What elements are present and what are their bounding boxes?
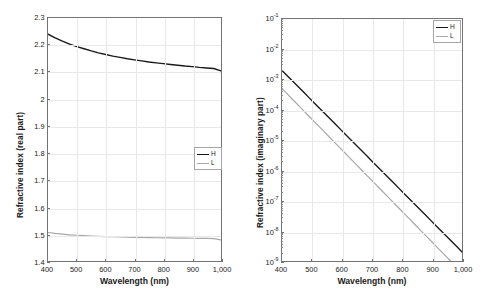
tick-mark-y-minor — [281, 51, 283, 52]
gridline-horizontal — [282, 111, 462, 112]
tick-mark-y-minor — [281, 53, 283, 54]
tick-mark-y-minor — [281, 186, 283, 187]
x-tick-label: 600 — [99, 265, 111, 274]
gridline-horizontal — [282, 50, 462, 51]
gridline-horizontal — [48, 181, 221, 182]
series-line-l — [282, 89, 451, 261]
panel-real-part: Refractive index (real part) H L Wavelen… — [0, 0, 243, 305]
tick-mark-y-minor — [281, 213, 283, 214]
gridline-vertical — [373, 19, 374, 261]
tick-mark-y-minor — [281, 241, 283, 242]
tick-mark-x — [281, 259, 282, 262]
tick-mark-y-minor — [281, 206, 283, 207]
tick-mark-y-minor — [281, 131, 283, 132]
tick-mark-y-minor — [281, 173, 283, 174]
tick-mark-x — [135, 259, 136, 262]
gridline-horizontal — [48, 127, 221, 128]
tick-mark-y-minor — [281, 247, 283, 248]
gridline-horizontal — [282, 80, 462, 81]
x-tick-label: 700 — [128, 265, 140, 274]
gridline-horizontal — [282, 141, 462, 142]
tick-mark-y — [47, 180, 50, 181]
tick-mark-y-minor — [281, 192, 283, 193]
dual-panel-figure: Refractive index (real part) H L Wavelen… — [0, 0, 486, 305]
tick-mark-y-minor — [281, 183, 283, 184]
y-tick-label: 10-8 — [266, 227, 279, 236]
tick-mark-x — [76, 259, 77, 262]
tick-mark-y-minor — [281, 23, 283, 24]
y-tick-label: 1.6 — [34, 203, 44, 212]
tick-mark-y-minor — [281, 27, 283, 28]
x-tick-label: 1,000 — [454, 265, 473, 274]
y-axis-label-left: Refractive index (real part) — [16, 112, 25, 218]
y-tick-label: 2.2 — [34, 40, 44, 49]
gridline-horizontal — [48, 45, 221, 46]
series-line-h — [282, 70, 462, 252]
tick-mark-x — [105, 259, 106, 262]
y-tick-label: 1.7 — [34, 176, 44, 185]
tick-mark-y — [281, 262, 284, 263]
x-axis-label-left: Wavelength (nm) — [47, 276, 222, 286]
y-tick-label: 10-3 — [266, 75, 279, 84]
tick-mark-x — [372, 259, 373, 262]
tick-mark-y-minor — [281, 34, 283, 35]
x-tick-label: 900 — [187, 265, 199, 274]
tick-mark-y-minor — [281, 111, 283, 112]
gridline-vertical — [434, 19, 435, 261]
tick-mark-y-minor — [281, 152, 283, 153]
legend-item-h[interactable]: H — [436, 23, 458, 31]
y-tick-label: 1.9 — [34, 121, 44, 130]
tick-mark-y-minor — [281, 125, 283, 126]
tick-mark-y-minor — [281, 253, 283, 254]
legend-swatch-l-icon — [197, 163, 209, 164]
y-tick-label: 10-6 — [266, 166, 279, 175]
tick-mark-y-minor — [281, 50, 283, 51]
tick-mark-y-minor — [281, 61, 283, 62]
gridline-vertical — [403, 19, 404, 261]
tick-mark-y-minor — [281, 147, 283, 148]
gridline-horizontal — [48, 209, 221, 210]
tick-mark-y-minor — [281, 86, 283, 87]
tick-mark-y-minor — [281, 143, 283, 144]
gridline-vertical — [343, 19, 344, 261]
legend-label-l: L — [450, 32, 454, 40]
x-tick-label: 900 — [426, 265, 438, 274]
tick-mark-y-minor — [281, 58, 283, 59]
tick-mark-y — [47, 153, 50, 154]
plot-area-left — [47, 17, 222, 262]
legend-swatch-h-icon — [197, 154, 209, 155]
tick-mark-y-minor — [281, 208, 283, 209]
tick-mark-y-minor — [281, 234, 283, 235]
x-tick-label: 800 — [157, 265, 169, 274]
tick-mark-y-minor — [281, 244, 283, 245]
tick-mark-x — [311, 259, 312, 262]
tick-mark-y-minor — [281, 119, 283, 120]
gridline-horizontal — [48, 72, 221, 73]
tick-mark-y-minor — [281, 210, 283, 211]
tick-mark-y-minor — [281, 233, 283, 234]
y-tick-label: 2 — [40, 94, 44, 103]
gridline-vertical — [312, 19, 313, 261]
gridline-horizontal — [48, 236, 221, 237]
tick-mark-y-minor — [281, 175, 283, 176]
x-axis-label-right: Wavelength (nm) — [281, 276, 463, 286]
tick-mark-y-minor — [281, 114, 283, 115]
tick-mark-y — [47, 262, 50, 263]
gridline-vertical — [194, 18, 195, 261]
y-tick-label: 10-1 — [266, 14, 279, 23]
legend-right[interactable]: H L — [433, 20, 461, 43]
gridline-vertical — [136, 18, 137, 261]
legend-item-l[interactable]: L — [197, 159, 219, 167]
tick-mark-y-minor — [281, 149, 283, 150]
tick-mark-y-minor — [281, 70, 283, 71]
tick-mark-x — [463, 259, 464, 262]
legend-left[interactable]: H L — [194, 147, 222, 170]
legend-item-l[interactable]: L — [436, 32, 458, 40]
legend-label-h: H — [211, 150, 216, 158]
tick-mark-y-minor — [281, 25, 283, 26]
gridline-horizontal — [282, 172, 462, 173]
gridline-horizontal — [282, 233, 462, 234]
legend-swatch-h-icon — [436, 27, 448, 28]
legend-item-h[interactable]: H — [197, 150, 219, 158]
gridline-vertical — [106, 18, 107, 261]
